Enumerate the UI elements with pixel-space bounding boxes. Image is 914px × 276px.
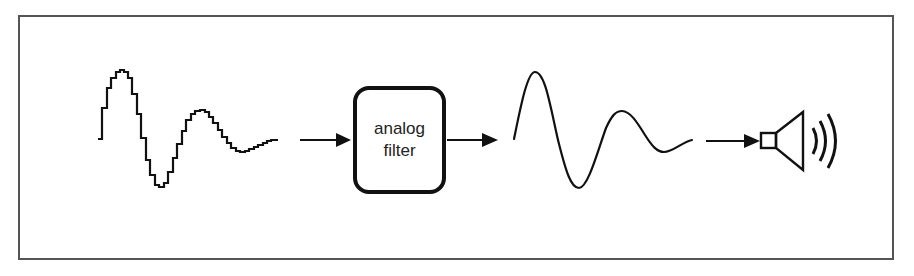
analog-filter-box: analog filter	[353, 86, 446, 194]
arrowhead-icon	[482, 133, 498, 147]
filter-label-line1: analog	[374, 118, 425, 140]
arrowhead-icon	[744, 134, 760, 148]
signal-flow-diagram	[0, 0, 914, 276]
filter-label-line2: filter	[383, 140, 415, 162]
smooth-waveform	[514, 72, 692, 188]
speaker-icon	[761, 112, 836, 170]
arrowhead-icon	[336, 133, 351, 147]
staircase-waveform	[98, 70, 278, 187]
